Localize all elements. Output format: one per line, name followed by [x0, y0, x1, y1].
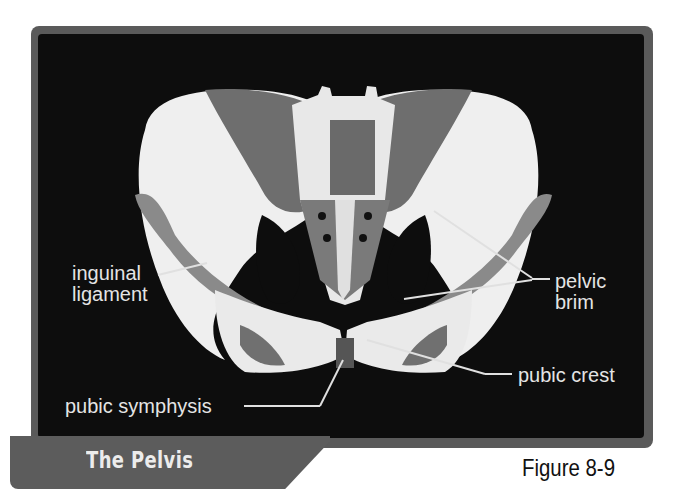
label-line: inguinal [72, 263, 148, 284]
label-line: pelvic [555, 271, 606, 292]
label-line: brim [555, 292, 606, 313]
pelvis-illustration [0, 0, 677, 504]
figure-number: Figure 8-9 [522, 454, 615, 482]
label-pelvic-brim: pelvic brim [555, 271, 606, 313]
label-pubic-crest: pubic crest [518, 365, 615, 386]
label-line: ligament [72, 284, 148, 305]
figure-title: The Pelvis [86, 447, 193, 473]
label-pubic-symphysis: pubic symphysis [65, 396, 212, 417]
label-inguinal-ligament: inguinal ligament [72, 263, 148, 305]
